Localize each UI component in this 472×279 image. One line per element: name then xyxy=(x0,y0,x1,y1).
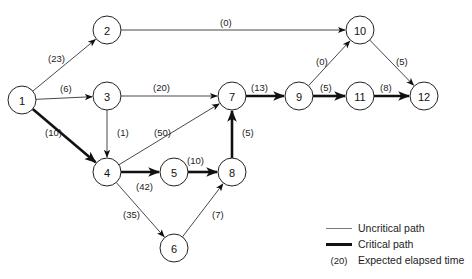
uncritical-edge-9-10 xyxy=(309,41,350,86)
thick-line-icon xyxy=(326,243,352,246)
node-label: 7 xyxy=(229,91,235,103)
edge-duration-label: (50) xyxy=(154,127,171,138)
node-label: 2 xyxy=(104,25,110,37)
node-3: 3 xyxy=(93,82,121,110)
node-label: 12 xyxy=(418,91,430,103)
node-9: 9 xyxy=(285,82,313,110)
edge-duration-label: (5) xyxy=(242,127,254,138)
node-12: 12 xyxy=(410,82,438,110)
node-5: 5 xyxy=(160,158,188,186)
critical-edge-1-4 xyxy=(33,109,96,162)
edge-duration-label: (13) xyxy=(251,82,268,93)
legend-uncritical-label: Uncritical path xyxy=(358,222,425,234)
node-label: 8 xyxy=(229,167,235,179)
edge-duration-label: (20) xyxy=(153,82,170,93)
legend-key-sample: (20) xyxy=(326,255,352,266)
legend-uncritical: Uncritical path xyxy=(326,220,464,236)
node-8: 8 xyxy=(218,158,246,186)
thin-line-icon xyxy=(326,228,352,229)
edge-duration-label: (1) xyxy=(117,127,129,138)
legend-key-label: Expected elapsed time xyxy=(358,254,464,266)
node-label: 9 xyxy=(296,91,302,103)
legend-critical: Critical path xyxy=(326,236,464,252)
node-4: 4 xyxy=(93,158,121,186)
edge-duration-label: (0) xyxy=(316,56,328,67)
edge-duration-label: (8) xyxy=(380,82,392,93)
node-7: 7 xyxy=(218,82,246,110)
node-label: 10 xyxy=(354,25,366,37)
edge-duration-label: (7) xyxy=(212,209,224,220)
legend-time-key: (20) Expected elapsed time xyxy=(326,252,464,268)
node-2: 2 xyxy=(93,16,121,44)
node-label: 4 xyxy=(104,167,110,179)
node-10: 10 xyxy=(346,16,374,44)
edge-duration-label: (10) xyxy=(187,155,204,166)
node-label: 5 xyxy=(171,167,177,179)
node-label: 1 xyxy=(19,95,25,107)
node-label: 6 xyxy=(171,243,177,255)
node-6: 6 xyxy=(160,234,188,262)
edge-duration-label: (6) xyxy=(60,83,72,94)
legend-critical-label: Critical path xyxy=(358,238,413,250)
edge-duration-label: (0) xyxy=(220,17,232,28)
edge-duration-label: (42) xyxy=(136,181,153,192)
edge-duration-label: (10) xyxy=(45,127,62,138)
uncritical-edge-1-3 xyxy=(36,97,92,100)
edge-duration-label: (5) xyxy=(320,82,332,93)
edge-duration-label: (23) xyxy=(48,53,65,64)
edge-duration-label: (35) xyxy=(123,209,140,220)
node-11: 11 xyxy=(346,82,374,110)
legend: Uncritical path Critical path (20) Expec… xyxy=(326,220,464,268)
node-1: 1 xyxy=(8,86,36,114)
node-label: 11 xyxy=(354,91,365,103)
edge-duration-label: (5) xyxy=(396,56,408,67)
node-label: 3 xyxy=(104,91,110,103)
